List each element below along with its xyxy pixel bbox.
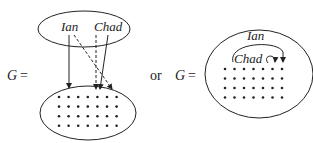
dot: [77, 125, 80, 128]
dot: [271, 68, 274, 71]
dot: [115, 115, 118, 118]
dot: [96, 96, 99, 99]
dot: [233, 68, 236, 71]
dot: [243, 96, 246, 99]
dot: [271, 87, 274, 90]
equals-sign-2: =: [188, 68, 196, 83]
target-ellipse: [40, 86, 136, 140]
dot: [106, 125, 109, 128]
dot: [115, 125, 118, 128]
dot: [58, 125, 61, 128]
diagram-canvas: G = Ian Chad or G = Ian Chad: [0, 0, 313, 143]
dot: [115, 105, 118, 108]
dot-grid: [58, 96, 118, 127]
or-connector: or: [150, 68, 162, 83]
dot: [67, 125, 70, 128]
dot: [58, 105, 61, 108]
dot: [262, 96, 265, 99]
dot: [96, 115, 99, 118]
node-chad-2: Chad: [234, 51, 263, 66]
dot: [252, 77, 255, 80]
dot: [106, 115, 109, 118]
dot: [77, 115, 80, 118]
diagram-1: G = Ian Chad: [7, 11, 136, 140]
dot: [115, 96, 118, 99]
dot: [224, 96, 227, 99]
dot: [281, 96, 284, 99]
dot: [243, 68, 246, 71]
diagram-2: G = Ian Chad: [175, 28, 313, 118]
dot: [96, 125, 99, 128]
dot: [262, 87, 265, 90]
dot: [87, 105, 90, 108]
dot: [281, 87, 284, 90]
dot: [224, 77, 227, 80]
dot: [67, 105, 70, 108]
dot: [77, 105, 80, 108]
dot: [233, 77, 236, 80]
chad-self-loop: [266, 56, 275, 63]
node-ian: Ian: [60, 19, 78, 34]
dot: [243, 87, 246, 90]
dot: [224, 68, 227, 71]
dot: [233, 87, 236, 90]
dot: [271, 77, 274, 80]
dot: [77, 96, 80, 99]
equals-sign: =: [20, 68, 28, 83]
dot: [262, 77, 265, 80]
dot: [87, 115, 90, 118]
dot-grid-2: [224, 68, 284, 99]
dot: [106, 105, 109, 108]
dot: [281, 77, 284, 80]
dot: [58, 96, 61, 99]
dot: [106, 96, 109, 99]
dot: [271, 96, 274, 99]
graph-ellipse: [205, 30, 313, 118]
dot: [281, 68, 284, 71]
dot: [96, 105, 99, 108]
g-variable: G: [7, 68, 17, 83]
dot: [67, 115, 70, 118]
node-chad: Chad: [94, 19, 123, 34]
dot: [252, 68, 255, 71]
dot: [243, 77, 246, 80]
dot: [252, 87, 255, 90]
dot: [87, 96, 90, 99]
dot: [67, 96, 70, 99]
dot: [262, 68, 265, 71]
dot: [252, 96, 255, 99]
node-ian-2: Ian: [246, 28, 264, 43]
dot: [87, 125, 90, 128]
dot: [58, 115, 61, 118]
dot: [233, 96, 236, 99]
g-variable-2: G: [175, 68, 185, 83]
dot: [224, 87, 227, 90]
